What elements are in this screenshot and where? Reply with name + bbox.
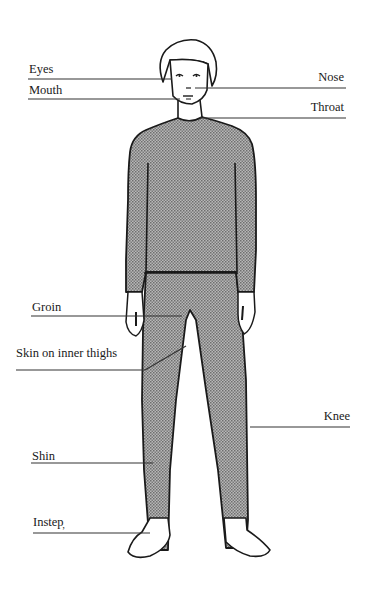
label-mouth: Mouth — [29, 83, 62, 97]
label-nose: Nose — [318, 70, 344, 84]
label-knee: Knee — [324, 409, 350, 423]
label-inner-thighs: Skin on inner thighs — [16, 346, 117, 360]
label-shin: Shin — [32, 449, 55, 463]
left-foot — [128, 518, 170, 557]
label-throat: Throat — [311, 100, 344, 114]
face — [170, 60, 208, 105]
label-instep: Instep̦ — [33, 515, 64, 529]
right-hand — [238, 292, 255, 334]
label-groin: Groin — [32, 300, 61, 314]
right-foot — [224, 518, 270, 556]
label-eyes: Eyes — [29, 62, 53, 76]
trousers — [142, 272, 248, 550]
